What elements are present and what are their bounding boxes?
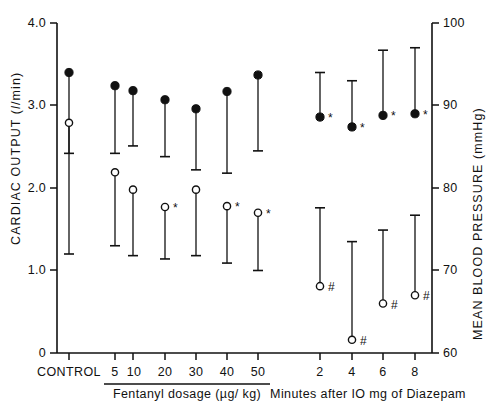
co-significance-marker: * bbox=[266, 207, 271, 221]
co-mean-marker bbox=[111, 169, 118, 176]
x-label-5: 5 bbox=[111, 365, 118, 379]
bp-mean-marker bbox=[111, 82, 119, 90]
x-label-50: 50 bbox=[251, 365, 266, 379]
y-right-tick-label-70: 70 bbox=[443, 263, 458, 277]
y-right-tick-label-80: 80 bbox=[443, 181, 458, 195]
y-tick-label-1-0: 1.0 bbox=[28, 263, 46, 277]
y-tick-label-3-0: 3.0 bbox=[28, 98, 46, 112]
y-axis-left-ticks: 4.0 3.0 2.0 1.0 0 bbox=[28, 16, 57, 360]
co-mean-marker bbox=[411, 292, 418, 299]
x-label-10: 10 bbox=[127, 365, 142, 379]
co-significance-marker: * bbox=[173, 201, 178, 215]
co-mean-marker bbox=[254, 209, 261, 216]
co-mean-marker bbox=[161, 203, 168, 210]
bp-mean-marker bbox=[411, 110, 419, 118]
co-significance-marker: # bbox=[328, 280, 335, 294]
co-significance-marker: # bbox=[423, 289, 430, 303]
bp-mean-marker bbox=[254, 71, 262, 79]
y-right-tick-label-100: 100 bbox=[443, 16, 465, 30]
y-axis-right-ticks: 100 90 80 70 60 bbox=[432, 16, 465, 360]
bp-significance-marker: * bbox=[360, 121, 365, 135]
co-mean-marker bbox=[316, 283, 323, 290]
bp-mean-marker bbox=[379, 111, 387, 119]
bp-mean-marker bbox=[316, 113, 324, 121]
diazepam-caption: Minutes after IO mg of Diazepam bbox=[270, 387, 466, 401]
x-label-6: 6 bbox=[379, 365, 386, 379]
y-axis-right-title: MEAN BLOOD PRESSURE (mmHg) bbox=[471, 107, 485, 340]
bp-mean-marker bbox=[192, 105, 200, 113]
co-mean-marker bbox=[129, 186, 136, 193]
bp-significance-marker: * bbox=[391, 109, 396, 123]
bp-significance-marker: * bbox=[328, 111, 333, 125]
co-mean-marker bbox=[65, 119, 72, 126]
y-right-tick-label-60: 60 bbox=[443, 346, 458, 360]
x-label-2: 2 bbox=[316, 365, 323, 379]
bp-mean-marker bbox=[348, 123, 356, 131]
co-significance-marker: # bbox=[360, 334, 367, 348]
bp-significance-marker: * bbox=[423, 108, 428, 122]
bp-mean-marker bbox=[65, 68, 73, 76]
co-significance-marker: * bbox=[235, 200, 240, 214]
bp-mean-marker bbox=[223, 87, 231, 95]
fentanyl-caption: Fentanyl dosage (µg/ kg) bbox=[113, 387, 261, 401]
x-label-40: 40 bbox=[220, 365, 235, 379]
data-series-layer: ****#*#*#*# bbox=[64, 48, 430, 348]
x-label-4: 4 bbox=[348, 365, 355, 379]
co-mean-marker bbox=[192, 186, 199, 193]
x-label-control: CONTROL bbox=[37, 365, 101, 379]
y-right-tick-label-90: 90 bbox=[443, 98, 458, 112]
cardiac-output-blood-pressure-chart: 4.0 3.0 2.0 1.0 0 100 90 80 70 60 CARDIA… bbox=[0, 0, 490, 409]
x-axis-ticks bbox=[69, 353, 415, 360]
co-significance-marker: # bbox=[391, 298, 398, 312]
axes bbox=[57, 23, 432, 353]
co-mean-marker bbox=[223, 203, 230, 210]
figure-panel: 4.0 3.0 2.0 1.0 0 100 90 80 70 60 CARDIA… bbox=[0, 0, 490, 409]
bp-mean-marker bbox=[161, 96, 169, 104]
x-label-20: 20 bbox=[158, 365, 173, 379]
x-label-30: 30 bbox=[189, 365, 204, 379]
x-label-8: 8 bbox=[411, 365, 418, 379]
x-axis-tick-labels: CONTROL 5 10 20 30 40 50 2 4 6 8 bbox=[37, 365, 419, 379]
co-mean-marker bbox=[379, 300, 386, 307]
co-mean-marker bbox=[348, 336, 355, 343]
y-tick-label-0: 0 bbox=[39, 346, 46, 360]
bp-mean-marker bbox=[129, 87, 137, 95]
y-tick-label-2-0: 2.0 bbox=[28, 181, 46, 195]
y-axis-left-title: CARDIAC OUTPUT (l/min) bbox=[9, 72, 23, 245]
y-tick-label-4-0: 4.0 bbox=[28, 16, 46, 30]
